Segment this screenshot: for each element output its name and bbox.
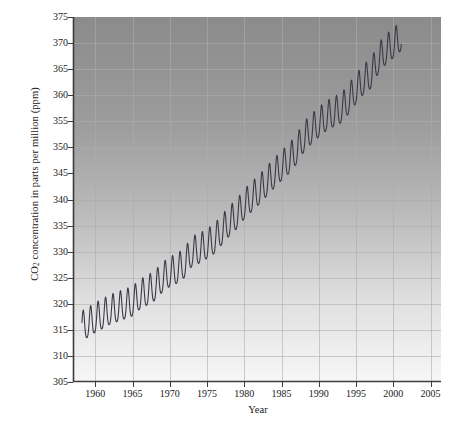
- y-tick-label: 360: [38, 90, 68, 100]
- y-tick-label: 365: [38, 64, 68, 74]
- x-tick-label: 2005: [409, 389, 453, 399]
- y-tick-label: 370: [38, 38, 68, 48]
- x-axis-title: Year: [73, 404, 443, 415]
- y-tick-label: 375: [38, 12, 68, 22]
- y-tick-label: 350: [38, 142, 68, 152]
- co2-keeling-curve-figure: 3053103153203253303353403453503553603653…: [0, 0, 460, 441]
- y-tick-label: 305: [38, 377, 68, 387]
- y-tick-label: 325: [38, 273, 68, 283]
- y-tick-label: 320: [38, 299, 68, 309]
- x-axis-tick-labels: 1960196519701975198019851990199520002005: [0, 389, 460, 405]
- y-tick-label: 315: [38, 325, 68, 335]
- y-tick-label: 355: [38, 116, 68, 126]
- chart-canvas: [0, 0, 460, 441]
- y-axis-tick-marks: [68, 18, 73, 383]
- y-tick-label: 330: [38, 247, 68, 257]
- y-tick-label: 335: [38, 221, 68, 231]
- y-axis-title-subscript: 2: [32, 262, 41, 266]
- x-axis-tick-marks: [96, 382, 432, 387]
- y-axis-title: CO2 concentration in parts per million (…: [29, 54, 41, 314]
- y-tick-label: 310: [38, 351, 68, 361]
- y-tick-label: 345: [38, 168, 68, 178]
- y-axis-title-post: concentration in parts per million (ppm): [29, 87, 40, 262]
- y-tick-label: 340: [38, 195, 68, 205]
- y-axis-title-pre: CO: [29, 266, 40, 281]
